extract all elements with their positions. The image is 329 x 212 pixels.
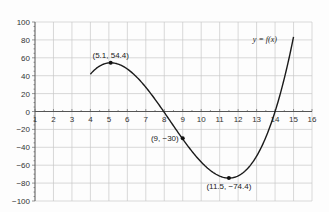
point-label: (11.5, −74.4) bbox=[206, 182, 251, 191]
x-tick-label: 16 bbox=[308, 115, 317, 124]
marked-points: (5.1, 54.4)(9, −30)(11.5, −74.4) bbox=[92, 51, 251, 191]
y-tick-label: 20 bbox=[21, 90, 30, 99]
x-tick-label: 12 bbox=[234, 115, 243, 124]
x-tick-label: 1 bbox=[33, 115, 38, 124]
y-tick-label: 40 bbox=[21, 72, 30, 81]
point-label: (5.1, 54.4) bbox=[92, 51, 129, 60]
y-tick-label: −80 bbox=[16, 179, 30, 188]
y-tick-label: 80 bbox=[21, 36, 30, 45]
function-label: y = f(x) bbox=[252, 35, 277, 44]
y-tick-label: 100 bbox=[17, 18, 31, 27]
y-tick-label: −100 bbox=[12, 197, 31, 206]
x-tick-label: 3 bbox=[70, 115, 75, 124]
axes bbox=[32, 22, 312, 201]
y-tick-label: 60 bbox=[21, 54, 30, 63]
x-tick-label: 9 bbox=[181, 115, 186, 124]
point-label: (9, −30) bbox=[151, 134, 179, 143]
x-tick-label: 5 bbox=[107, 115, 112, 124]
marked-point bbox=[227, 176, 231, 180]
x-tick-label: 15 bbox=[289, 115, 298, 124]
x-tick-label: 11 bbox=[216, 115, 225, 124]
y-tick-label: 0 bbox=[26, 108, 31, 117]
function-plot: −100−80−60−40−20020406080100 12345678910… bbox=[0, 0, 329, 212]
marked-point bbox=[181, 136, 185, 140]
x-tick-label: 7 bbox=[144, 115, 149, 124]
x-tick-label: 2 bbox=[51, 115, 56, 124]
x-tick-label: 4 bbox=[88, 115, 93, 124]
y-tick-label: −60 bbox=[16, 161, 30, 170]
x-tick-label: 10 bbox=[197, 115, 206, 124]
y-tick-label: −40 bbox=[16, 143, 30, 152]
x-tick-label: 13 bbox=[252, 115, 261, 124]
marked-point bbox=[109, 61, 113, 65]
y-axis-tick-labels: −100−80−60−40−20020406080100 bbox=[12, 18, 31, 206]
x-tick-label: 6 bbox=[125, 115, 130, 124]
y-tick-label: −20 bbox=[16, 125, 30, 134]
